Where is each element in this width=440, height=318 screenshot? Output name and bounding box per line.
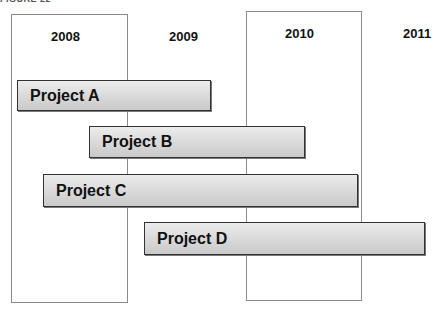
year-label-2008: 2008 bbox=[51, 29, 80, 44]
figure-label: FIGURE 22 bbox=[0, 0, 51, 4]
project-label-c: Project C bbox=[44, 175, 126, 206]
project-bar-b: Project B bbox=[89, 126, 305, 158]
project-label-a: Project A bbox=[18, 81, 100, 110]
project-bar-c: Project C bbox=[43, 174, 358, 207]
year-label-2010: 2010 bbox=[285, 26, 314, 41]
project-bar-d: Project D bbox=[144, 222, 425, 255]
year-label-2009: 2009 bbox=[169, 29, 198, 44]
year-label-2011: 2011 bbox=[403, 26, 431, 41]
project-label-b: Project B bbox=[90, 127, 172, 157]
project-bar-a: Project A bbox=[17, 80, 211, 111]
project-label-d: Project D bbox=[145, 223, 227, 254]
year-box-2008 bbox=[11, 14, 128, 303]
